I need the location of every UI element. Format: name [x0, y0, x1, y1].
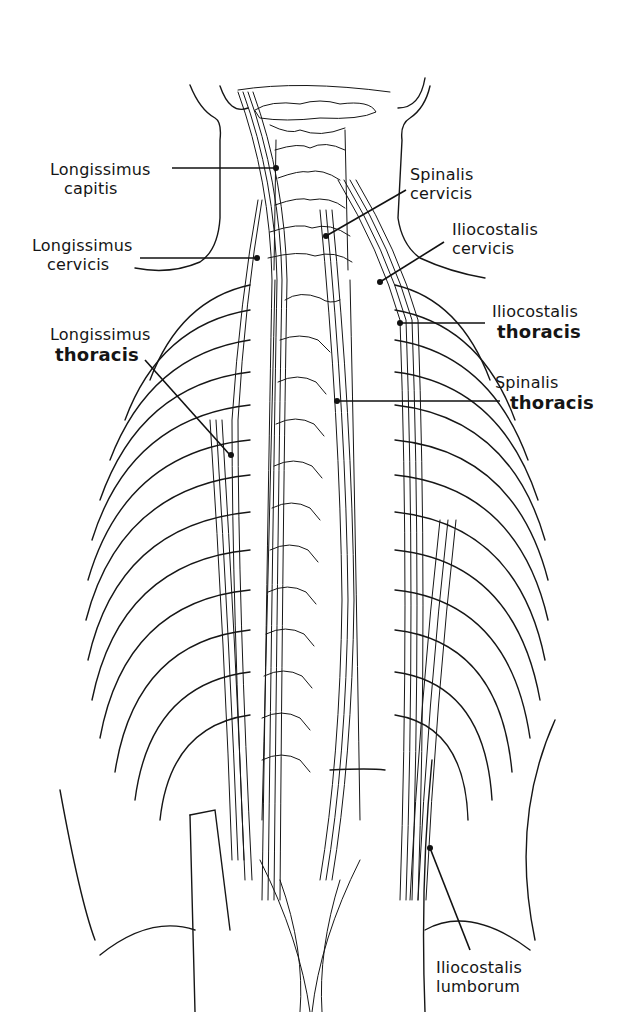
label-line-1: Spinalis [495, 373, 594, 392]
leader-lines [140, 165, 500, 950]
label-line-2: cervicis [410, 184, 474, 203]
label-line-2: lumborum [436, 977, 522, 996]
label-spinalis-thoracis: Spinalis thoracis [495, 373, 594, 413]
cervical-vertebrae [238, 85, 390, 270]
label-longissimus-capitis: Longissimus capitis [50, 160, 151, 198]
label-longissimus-thoracis: Longissimus thoracis [50, 325, 151, 365]
label-line-2: thoracis [495, 392, 594, 413]
muscle-bundles [210, 92, 456, 900]
label-line-1: Longissimus [50, 325, 151, 344]
label-longissimus-cervicis: Longissimus cervicis [32, 236, 133, 274]
label-line-2: capitis [50, 179, 151, 198]
label-line-2: cervicis [32, 255, 133, 274]
label-iliocostalis-lumborum: Iliocostalis lumborum [436, 958, 522, 996]
label-line-1: Spinalis [410, 165, 474, 184]
anatomy-figure: Longissimus capitis Longissimus cervicis… [0, 0, 623, 1012]
label-line-1: Iliocostalis [436, 958, 522, 977]
label-iliocostalis-thoracis: Iliocostalis thoracis [492, 302, 581, 342]
label-line-1: Longissimus [32, 236, 133, 255]
label-line-1: Longissimus [50, 160, 151, 179]
label-line-1: Iliocostalis [452, 220, 538, 239]
label-iliocostalis-cervicis: Iliocostalis cervicis [452, 220, 538, 258]
label-line-2: thoracis [492, 321, 581, 342]
label-line-1: Iliocostalis [492, 302, 581, 321]
label-line-2: thoracis [50, 344, 151, 365]
thoracic-vertebrae [262, 280, 360, 820]
label-spinalis-cervicis: Spinalis cervicis [410, 165, 474, 203]
erector-spinae-drawing [0, 0, 623, 1012]
label-line-2: cervicis [452, 239, 538, 258]
